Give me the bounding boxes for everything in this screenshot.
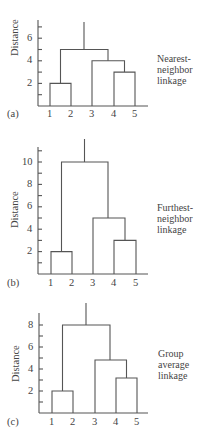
ytick-c-2: 2 <box>28 385 33 397</box>
ytick-c-4: 4 <box>28 363 33 375</box>
caption-c-line2: average <box>158 359 189 370</box>
ytick-c-8: 8 <box>28 319 33 331</box>
leaf-c-4: 4 <box>113 416 118 428</box>
leaf-c-3: 3 <box>92 416 97 428</box>
ytick-c-6: 6 <box>28 341 33 353</box>
ylabel-c: Distance <box>10 345 22 382</box>
caption-c-line1: Group <box>158 348 189 359</box>
caption-c: Group average linkage <box>158 348 189 381</box>
panel-label-c: (c) <box>7 416 19 428</box>
leaf-c-2: 2 <box>70 416 75 428</box>
caption-c-line3: linkage <box>158 370 189 381</box>
leaf-c-5: 5 <box>134 416 139 428</box>
leaf-c-1: 1 <box>49 416 54 428</box>
